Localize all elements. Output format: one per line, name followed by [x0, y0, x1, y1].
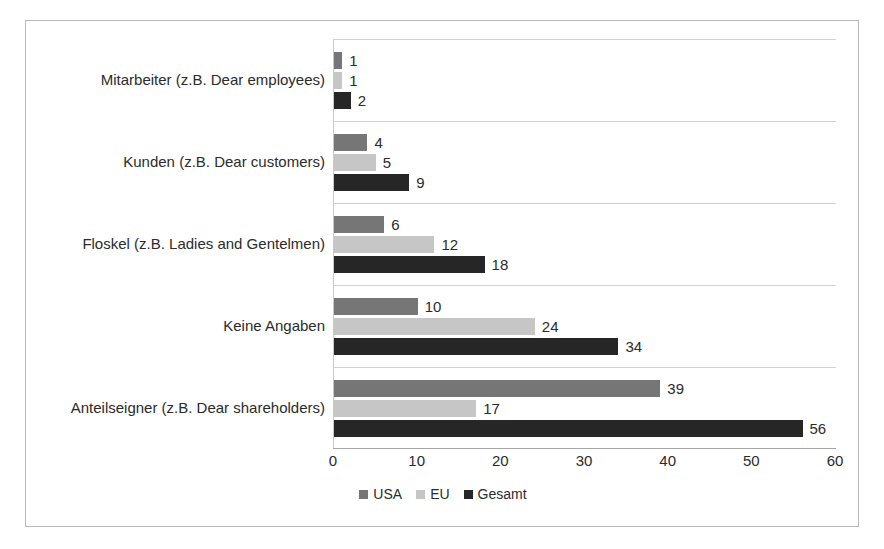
chart-legend: USAEUGesamt [26, 487, 860, 501]
bar-row: 10 [334, 298, 836, 315]
legend-swatch-icon [464, 490, 473, 499]
category-axis-line [333, 448, 836, 449]
bar-value-label: 1 [349, 73, 357, 88]
bar-row: 2 [334, 92, 836, 109]
tick-label: 10 [408, 453, 425, 468]
bar-group: 112 [334, 52, 836, 109]
bar-value-label: 18 [492, 257, 509, 272]
bar-value-label: 4 [374, 135, 382, 150]
bar-row: 34 [334, 338, 836, 355]
bar-row: 12 [334, 236, 836, 253]
bar-gesamt[interactable] [334, 92, 351, 109]
bar-value-label: 24 [542, 319, 559, 334]
bar-eu[interactable] [334, 154, 376, 171]
bar-usa[interactable] [334, 298, 418, 315]
legend-label: Gesamt [478, 487, 527, 501]
bar-group: 61218 [334, 216, 836, 273]
tick-label: 0 [329, 453, 337, 468]
bar-group: 102434 [334, 298, 836, 355]
legend-item-usa[interactable]: USA [359, 487, 402, 501]
bar-value-label: 2 [358, 93, 366, 108]
category-label: Keine Angaben [223, 318, 325, 333]
plot-area: 11245961218102434391756 [333, 39, 836, 449]
bar-value-label: 5 [383, 155, 391, 170]
gridline [333, 203, 836, 204]
tick-label: 50 [743, 453, 760, 468]
legend-item-gesamt[interactable]: Gesamt [464, 487, 527, 501]
chart-frame: Mitarbeiter (z.B. Dear employees)Kunden … [25, 20, 859, 527]
bar-row: 1 [334, 52, 836, 69]
bar-usa[interactable] [334, 216, 384, 233]
bar-eu[interactable] [334, 236, 434, 253]
category-label: Mitarbeiter (z.B. Dear employees) [101, 72, 325, 87]
category-axis-labels: Mitarbeiter (z.B. Dear employees)Kunden … [26, 39, 333, 449]
bar-value-label: 1 [349, 53, 357, 68]
bar-value-label: 10 [425, 299, 442, 314]
bar-value-label: 39 [667, 381, 684, 396]
tick-label: 20 [492, 453, 509, 468]
bar-value-label: 6 [391, 217, 399, 232]
tick-label: 30 [576, 453, 593, 468]
bar-row: 18 [334, 256, 836, 273]
legend-swatch-icon [359, 490, 368, 499]
bar-value-label: 34 [625, 339, 642, 354]
gridline [333, 121, 836, 122]
bar-value-label: 9 [416, 175, 424, 190]
tick-label: 40 [659, 453, 676, 468]
gridline [333, 285, 836, 286]
bar-value-label: 12 [441, 237, 458, 252]
bar-row: 24 [334, 318, 836, 335]
bar-usa[interactable] [334, 380, 660, 397]
bar-gesamt[interactable] [334, 338, 618, 355]
bar-gesamt[interactable] [334, 420, 803, 437]
bar-row: 17 [334, 400, 836, 417]
bar-row: 5 [334, 154, 836, 171]
bar-row: 1 [334, 72, 836, 89]
bar-value-label: 17 [483, 401, 500, 416]
bar-row: 6 [334, 216, 836, 233]
legend-label: USA [373, 487, 402, 501]
bar-eu[interactable] [334, 318, 535, 335]
gridline [333, 367, 836, 368]
bar-row: 39 [334, 380, 836, 397]
legend-label: EU [430, 487, 449, 501]
category-label: Anteilseigner (z.B. Dear shareholders) [71, 400, 325, 415]
bar-gesamt[interactable] [334, 174, 409, 191]
legend-item-eu[interactable]: EU [416, 487, 449, 501]
bar-group: 459 [334, 134, 836, 191]
bar-eu[interactable] [334, 72, 342, 89]
category-label: Kunden (z.B. Dear customers) [123, 154, 325, 169]
bar-row: 4 [334, 134, 836, 151]
gridline [333, 39, 836, 40]
tick-label: 60 [827, 453, 844, 468]
bar-value-label: 56 [810, 421, 827, 436]
legend-swatch-icon [416, 490, 425, 499]
bar-gesamt[interactable] [334, 256, 485, 273]
bar-group: 391756 [334, 380, 836, 437]
bar-usa[interactable] [334, 134, 367, 151]
bar-usa[interactable] [334, 52, 342, 69]
bar-row: 56 [334, 420, 836, 437]
value-axis-tick-labels: 0102030405060 [333, 453, 836, 475]
category-label: Floskel (z.B. Ladies and Gentelmen) [82, 236, 325, 251]
bar-row: 9 [334, 174, 836, 191]
bar-eu[interactable] [334, 400, 476, 417]
